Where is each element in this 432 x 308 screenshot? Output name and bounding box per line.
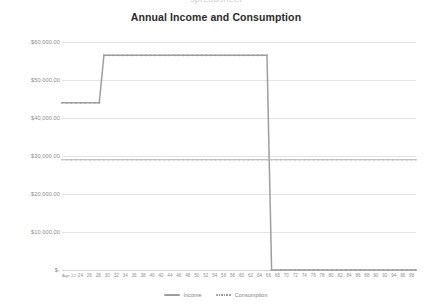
y-axis-tick-label: $10,000.00 bbox=[4, 229, 60, 235]
series-point bbox=[247, 54, 249, 56]
x-axis-tick-label: 54 bbox=[210, 272, 219, 282]
series-point bbox=[178, 159, 179, 160]
series-point bbox=[168, 54, 170, 56]
series-point bbox=[271, 159, 272, 160]
series-point bbox=[150, 159, 151, 160]
x-axis-tick-label: 56 bbox=[219, 272, 228, 282]
x-axis-tick-label: 74 bbox=[300, 272, 309, 282]
series-point bbox=[280, 269, 282, 271]
series-point bbox=[94, 159, 95, 160]
x-axis-tick-label: 28 bbox=[94, 272, 103, 282]
series-lines bbox=[62, 42, 416, 270]
y-axis-tick-label: $40,000.00 bbox=[4, 115, 60, 121]
x-axis-tick-label: 30 bbox=[103, 272, 112, 282]
series-point bbox=[113, 159, 114, 160]
series-line-income bbox=[62, 55, 416, 270]
series-point bbox=[364, 159, 365, 160]
series-point bbox=[122, 159, 123, 160]
series-point bbox=[415, 269, 417, 271]
series-point bbox=[196, 159, 197, 160]
series-point bbox=[261, 54, 263, 56]
x-axis-tick-label: 94 bbox=[389, 272, 398, 282]
series-point bbox=[285, 159, 286, 160]
series-point bbox=[401, 159, 402, 160]
y-axis-tick-labels: $-$10,000.00$20,000.00$30,000.00$40,000.… bbox=[0, 42, 60, 270]
series-point bbox=[364, 269, 366, 271]
x-axis-tick-label: 78 bbox=[318, 272, 327, 282]
series-point bbox=[84, 102, 86, 104]
series-point bbox=[373, 159, 374, 160]
series-point bbox=[182, 54, 184, 56]
x-axis-tick-label: 58 bbox=[228, 272, 237, 282]
series-point bbox=[327, 159, 328, 160]
series-point bbox=[257, 54, 259, 56]
series-point bbox=[313, 159, 314, 160]
series-point bbox=[196, 54, 198, 56]
clipped-header-text: spreadsheet bbox=[0, 0, 432, 7]
series-point bbox=[224, 54, 226, 56]
series-point bbox=[308, 269, 310, 271]
series-point bbox=[383, 269, 385, 271]
x-axis-tick-label: 44 bbox=[165, 272, 174, 282]
series-point bbox=[406, 269, 408, 271]
series-point bbox=[233, 54, 235, 56]
series-point bbox=[252, 159, 253, 160]
series-point bbox=[327, 269, 329, 271]
series-point bbox=[248, 159, 249, 160]
x-axis-tick-label: 38 bbox=[139, 272, 148, 282]
series-point bbox=[159, 159, 160, 160]
legend-swatch-icon bbox=[164, 294, 180, 296]
series-point bbox=[229, 159, 230, 160]
series-point bbox=[154, 159, 155, 160]
series-point bbox=[206, 54, 208, 56]
series-point bbox=[154, 54, 156, 56]
x-axis-tick-label: Age 22 bbox=[62, 272, 76, 282]
series-point bbox=[150, 54, 152, 56]
series-point bbox=[224, 159, 225, 160]
series-point bbox=[410, 269, 412, 271]
y-axis-tick-label: $20,000.00 bbox=[4, 191, 60, 197]
series-point bbox=[313, 269, 315, 271]
series-point bbox=[387, 269, 389, 271]
series-point bbox=[61, 159, 62, 160]
series-point bbox=[182, 159, 183, 160]
series-point bbox=[210, 159, 211, 160]
series-point bbox=[187, 54, 189, 56]
x-axis-tick-label: 32 bbox=[112, 272, 121, 282]
series-point bbox=[243, 54, 245, 56]
series-point bbox=[159, 54, 161, 56]
series-point bbox=[373, 269, 375, 271]
series-point bbox=[168, 159, 169, 160]
series-point bbox=[252, 54, 254, 56]
series-point bbox=[299, 159, 300, 160]
series-point bbox=[303, 269, 305, 271]
x-axis-tick-label: 24 bbox=[76, 272, 85, 282]
series-point bbox=[80, 159, 81, 160]
x-axis-tick-label: 36 bbox=[130, 272, 139, 282]
x-axis-tick-label: 52 bbox=[201, 272, 210, 282]
series-point bbox=[127, 159, 128, 160]
legend-item-income[interactable]: Income bbox=[164, 292, 201, 298]
x-axis-tick-label: 92 bbox=[380, 272, 389, 282]
series-point bbox=[378, 269, 380, 271]
series-point bbox=[359, 159, 360, 160]
series-point bbox=[122, 54, 124, 56]
series-point bbox=[173, 54, 175, 56]
x-axis-tick-labels: Age 222426283032343638404244464850525456… bbox=[62, 272, 416, 282]
series-point bbox=[145, 159, 146, 160]
series-point bbox=[336, 159, 337, 160]
series-point bbox=[276, 159, 277, 160]
series-point bbox=[266, 159, 267, 160]
series-point bbox=[192, 159, 193, 160]
series-point bbox=[140, 54, 142, 56]
series-point bbox=[308, 159, 309, 160]
x-axis-tick-label: 86 bbox=[353, 272, 362, 282]
series-point bbox=[206, 159, 207, 160]
x-axis-tick-label: 62 bbox=[246, 272, 255, 282]
legend-item-consumption[interactable]: Consumption bbox=[216, 292, 268, 298]
series-point bbox=[289, 269, 291, 271]
series-point bbox=[341, 159, 342, 160]
series-point bbox=[345, 269, 347, 271]
series-point bbox=[317, 159, 318, 160]
series-point bbox=[238, 159, 239, 160]
